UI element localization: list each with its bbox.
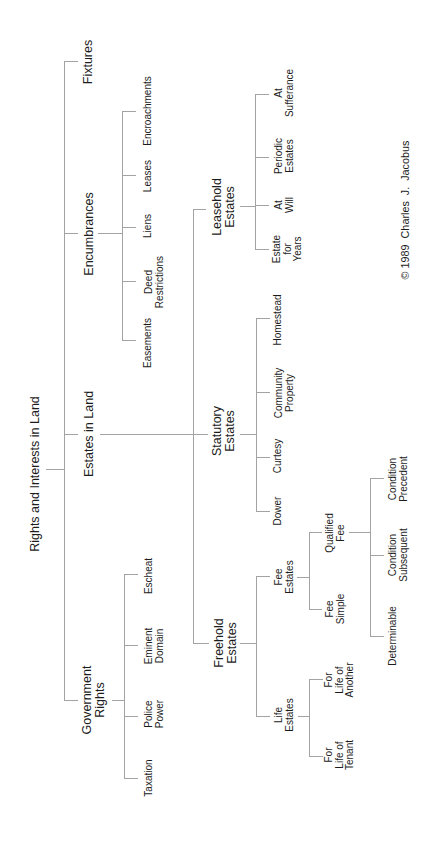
node-condition-precedent: Condition Precedent — [388, 456, 409, 502]
node-curtesy: Curtesy — [273, 439, 284, 473]
node-encumbrances: Encumbrances — [83, 192, 96, 275]
root-node-label: Rights and Interests in Land — [29, 396, 42, 552]
node-taxation: Taxation — [144, 759, 155, 796]
node-escheat: Escheat — [144, 558, 155, 594]
node-periodic-estates: Periodic Estates — [274, 138, 295, 174]
node-eminent-domain: Eminent Domain — [144, 628, 165, 665]
tree-diagram-page: Rights and Interests in Land Fixtures En… — [0, 0, 435, 850]
node-estate-for-years: Estate for Years — [272, 235, 304, 263]
node-community-property: Community Property — [274, 368, 295, 419]
node-encroachments: Encroachments — [143, 76, 154, 145]
node-fee-simple: Fee Simple — [325, 594, 346, 625]
node-determinable: Determinable — [388, 606, 399, 665]
node-life-estates: Life Estates — [274, 698, 295, 731]
node-at-will: At Will — [274, 197, 295, 213]
spine-qualified-fee — [370, 478, 384, 636]
node-easements: Easements — [143, 318, 154, 368]
node-statutory-estates: Statutory Estates — [211, 406, 237, 456]
node-homestead: Homestead — [273, 294, 284, 345]
node-for-life-of-tenant: For Life of Tenant — [324, 740, 356, 770]
node-for-life-of-another: For Life of Another — [324, 662, 356, 697]
node-estates-in-land: Estates in Land — [83, 391, 96, 477]
spine-estates-in-land — [193, 209, 209, 643]
spine-freehold — [256, 576, 270, 716]
spine-fee-estates — [309, 532, 322, 609]
spine-leasehold — [255, 94, 269, 249]
node-police-power: Police Power — [144, 700, 165, 728]
spine-encumbrances — [122, 111, 136, 340]
spine-government-rights — [124, 574, 138, 778]
node-at-sufferance: At Sufferance — [274, 69, 295, 117]
node-condition-subsequent: Condition Subsequent — [388, 528, 409, 581]
copyright-notice: © 1989 Charles J. Jacobus — [400, 141, 411, 280]
node-leasehold-estates: Leasehold Estates — [211, 178, 237, 236]
spine-life-estates — [309, 679, 323, 756]
node-qualified-fee: Qualified Fee — [325, 513, 346, 552]
node-freehold-estates: Freehold Estates — [213, 618, 239, 667]
node-deed-restrictions: Deed Restrictions — [144, 256, 165, 308]
node-fixtures: Fixtures — [82, 40, 95, 84]
node-fee-estates: Fee Estates — [274, 560, 295, 593]
spine-statutory — [256, 318, 270, 511]
node-leases: Leases — [143, 160, 154, 192]
node-liens: Liens — [143, 214, 154, 238]
node-dower: Dower — [273, 497, 284, 526]
node-government-rights: Government Rights — [81, 666, 107, 735]
